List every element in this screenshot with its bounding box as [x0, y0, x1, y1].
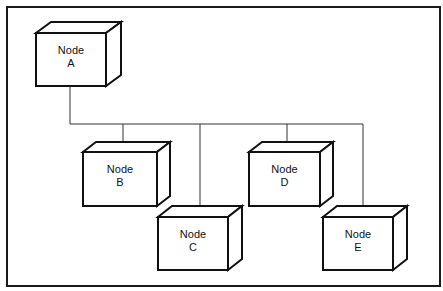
node-top-face	[83, 142, 170, 152]
node-label-line1: Node	[323, 228, 393, 241]
node-label-line2: C	[158, 241, 228, 254]
node-label-d: NodeD	[249, 163, 320, 189]
node-label-line2: D	[249, 176, 320, 189]
node-label-line2: B	[83, 176, 157, 189]
node-label-c: NodeC	[158, 228, 228, 254]
node-label-line1: Node	[83, 163, 157, 176]
node-label-line2: A	[36, 57, 106, 70]
node-label-line2: E	[323, 241, 393, 254]
node-label-line1: Node	[36, 44, 106, 57]
node-label-a: NodeA	[36, 44, 106, 70]
node-side-face	[228, 206, 242, 270]
node-label-e: NodeE	[323, 228, 393, 254]
node-side-face	[106, 22, 121, 86]
node-side-face	[320, 142, 333, 206]
node-label-line1: Node	[249, 163, 320, 176]
node-side-face	[393, 206, 407, 270]
node-side-face	[157, 142, 170, 206]
node-label-b: NodeB	[83, 163, 157, 189]
node-label-line1: Node	[158, 228, 228, 241]
